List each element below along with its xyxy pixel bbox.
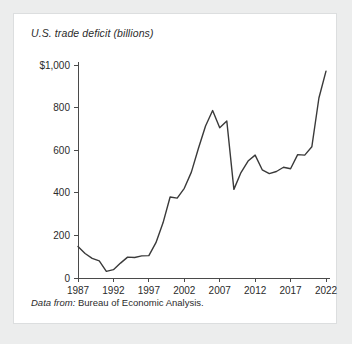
y-tick-label: 400 <box>53 187 70 198</box>
source-note: Data from: Bureau of Economic Analysis. <box>31 297 204 308</box>
ticks-group <box>74 65 326 282</box>
trade-deficit-series-line <box>78 71 326 271</box>
x-tick-label: 2002 <box>173 285 196 296</box>
y-tick-label: $1,000 <box>39 60 70 71</box>
y-tick-label: 600 <box>53 145 70 156</box>
source-label: Data from: <box>31 297 75 308</box>
y-tick-label: 800 <box>53 102 70 113</box>
axes-group <box>78 62 330 278</box>
x-tick-label: 2007 <box>209 285 232 296</box>
x-tick-label: 1992 <box>102 285 125 296</box>
y-tick-label: 200 <box>53 230 70 241</box>
figure-card: U.S. trade deficit (billions) 0200400600… <box>13 13 337 324</box>
y-tick-label: 0 <box>64 273 70 284</box>
x-tick-label: 2022 <box>315 285 338 296</box>
trade-deficit-line-chart: 0200400600800$1,000198719921997200220072… <box>14 14 338 325</box>
source-text: Bureau of Economic Analysis. <box>78 297 204 308</box>
x-tick-label: 2017 <box>279 285 302 296</box>
x-tick-label: 1997 <box>138 285 161 296</box>
x-tick-label: 1987 <box>67 285 90 296</box>
x-tick-label: 2012 <box>244 285 267 296</box>
